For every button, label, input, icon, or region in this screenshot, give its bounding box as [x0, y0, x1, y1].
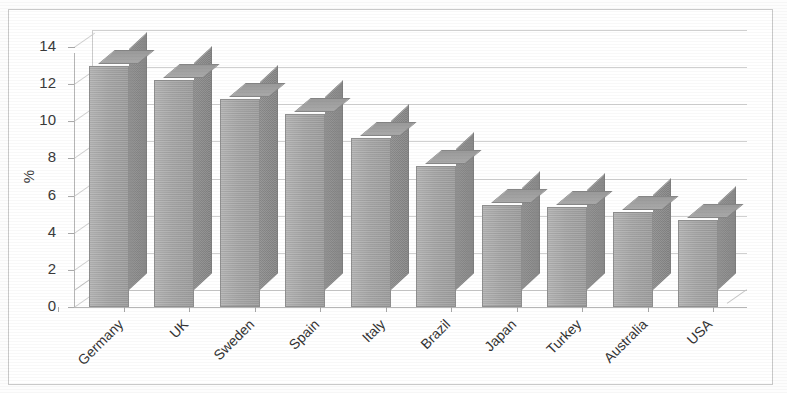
y-axis-line	[74, 53, 75, 307]
x-axis-label-spain: Spain	[249, 316, 323, 390]
x-axis-tick	[713, 307, 714, 312]
x-axis-label-sweden: Sweden	[184, 316, 258, 390]
bar-front-face	[678, 220, 718, 307]
y-axis-label: %	[20, 170, 37, 183]
bar-side-face	[718, 186, 736, 290]
y-axis-tick-label: 14	[16, 37, 56, 54]
y-axis-tick-label: 2	[16, 260, 56, 277]
floor-right-edge	[727, 289, 747, 304]
bar-side-face	[194, 47, 212, 290]
bar-front-face	[89, 66, 129, 307]
gridline	[92, 30, 747, 31]
x-axis-tick	[582, 307, 583, 312]
bar-usa[interactable]	[678, 201, 718, 307]
x-axis-line	[74, 307, 747, 308]
x-axis-tick	[648, 307, 649, 312]
x-axis-tick	[124, 307, 125, 312]
bar-sweden[interactable]	[220, 80, 260, 307]
bar-uk[interactable]	[154, 61, 194, 307]
chart-page: 02468101214 % GermanyUKSwedenSpainItalyB…	[0, 0, 787, 393]
bar-front-face	[547, 207, 587, 307]
x-axis-tick	[320, 307, 321, 312]
bar-side-face	[260, 65, 278, 290]
x-axis-tick	[386, 307, 387, 312]
x-axis-label-australia: Australia	[577, 316, 651, 390]
x-axis-tick	[517, 307, 518, 312]
bar-japan[interactable]	[482, 186, 522, 307]
x-axis-label-japan: Japan	[446, 316, 520, 390]
y-axis-tick-label: 8	[16, 148, 56, 165]
bar-spain[interactable]	[285, 95, 325, 307]
x-axis-tick	[451, 307, 452, 312]
y-axis-tick-label: 6	[16, 186, 56, 203]
bar-turkey[interactable]	[547, 188, 587, 307]
y-axis-tick-label: 12	[16, 74, 56, 91]
bar-front-face	[482, 205, 522, 307]
x-axis-label-usa: USA	[642, 316, 716, 390]
bar-front-face	[351, 138, 391, 307]
x-axis-label-uk: UK	[118, 316, 192, 390]
y-axis-tick	[68, 47, 75, 48]
x-axis-tick	[255, 307, 256, 312]
bar-front-face	[613, 212, 653, 307]
y-axis-tick-label: 10	[16, 111, 56, 128]
bar-front-face	[416, 166, 456, 307]
bar-chart-plot: 02468101214 % GermanyUKSwedenSpainItalyB…	[0, 0, 787, 393]
y-axis-tick-label: 4	[16, 223, 56, 240]
x-axis-label-brazil: Brazil	[380, 316, 454, 390]
bar-front-face	[220, 99, 260, 307]
bar-front-face	[154, 80, 194, 307]
bar-germany[interactable]	[89, 47, 129, 307]
x-axis-tick	[58, 307, 59, 312]
y-axis-tick-label: 0	[16, 297, 56, 314]
bar-side-face	[129, 32, 147, 290]
bar-italy[interactable]	[351, 119, 391, 307]
x-axis-label-germany: Germany	[53, 316, 127, 390]
bar-australia[interactable]	[613, 193, 653, 307]
x-axis-label-turkey: Turkey	[511, 316, 585, 390]
bar-brazil[interactable]	[416, 147, 456, 307]
x-axis-label-italy: Italy	[315, 316, 389, 390]
x-axis-tick	[189, 307, 190, 312]
bar-front-face	[285, 114, 325, 307]
